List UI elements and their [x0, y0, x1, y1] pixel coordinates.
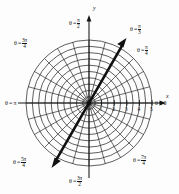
- angle-denominator-theta-3pi-2: 2: [77, 182, 83, 188]
- x-axis-letter: x: [166, 93, 169, 99]
- angle-label-theta-5pi-4: θ =5π4: [13, 157, 26, 169]
- y-axis-arrowhead: [87, 15, 92, 22]
- x-tick-label-5: 5: [150, 107, 153, 113]
- angle-denominator-theta-pi-4: 4: [145, 51, 148, 57]
- y-axis-letter: y: [93, 5, 96, 11]
- angle-fraction-theta-5pi-4: 5π4: [21, 157, 27, 169]
- angle-fraction-theta-pi-4: π4: [145, 45, 148, 57]
- pole-point: [87, 101, 91, 105]
- polar-grid-figure: y x 1 2 3 4 5 θ =π2 θ =π3 θ =π4 θ =3π4 θ…: [0, 0, 179, 194]
- angle-prefix-theta-3pi-4: θ =: [14, 40, 21, 46]
- angle-prefix-theta-pi: θ =: [5, 100, 12, 106]
- angle-prefix-theta-5pi-4: θ =: [13, 159, 20, 165]
- angle-label-theta-3pi-4: θ =3π4: [14, 38, 27, 50]
- x-tick-label-4: 4: [137, 107, 140, 113]
- angle-fraction-theta-7pi-4: 7π4: [141, 155, 147, 167]
- angle-label-theta-pi-3: θ =π3: [130, 24, 141, 36]
- angle-label-theta-7pi-4: θ =7π4: [133, 155, 146, 167]
- angle-fraction-theta-pi-2: π2: [77, 18, 80, 30]
- spoke-300: [89, 103, 121, 158]
- angle-prefix-theta-7pi-4: θ =: [133, 157, 140, 163]
- angle-label-theta-3pi-2: θ =3π2: [69, 176, 82, 188]
- angle-fraction-theta-pi-3: π3: [138, 24, 141, 36]
- angle-value-theta-0: 0: [163, 100, 166, 106]
- angle-label-theta-pi-4: θ =π4: [137, 45, 148, 57]
- x-tick-label-2: 2: [112, 107, 115, 113]
- polar-grid-svg: [0, 0, 179, 194]
- angle-denominator-theta-pi-3: 3: [138, 30, 141, 36]
- angle-prefix-theta-0: θ =: [155, 100, 162, 106]
- angle-label-theta-0: θ = 0: [155, 100, 166, 106]
- angle-value-theta-pi: π: [13, 100, 16, 106]
- theta-line-arrowhead-upper: [117, 38, 126, 48]
- angle-denominator-theta-5pi-4: 4: [21, 163, 27, 169]
- angle-denominator-theta-pi-2: 2: [77, 24, 80, 30]
- angle-prefix-theta-pi-4: θ =: [137, 47, 144, 53]
- x-tick-label-1: 1: [100, 107, 103, 113]
- angle-denominator-theta-7pi-4: 4: [141, 161, 147, 167]
- angle-label-theta-pi: θ = π: [5, 100, 16, 106]
- angle-denominator-theta-3pi-4: 4: [22, 44, 28, 50]
- spoke-330: [89, 103, 144, 135]
- angle-label-theta-pi-2: θ =π2: [69, 18, 80, 30]
- angle-prefix-theta-3pi-2: θ =: [69, 178, 76, 184]
- angle-prefix-theta-pi-3: θ =: [130, 26, 137, 32]
- angle-fraction-theta-3pi-2: 3π2: [77, 176, 83, 188]
- spoke-150: [34, 72, 89, 104]
- spoke-120: [58, 48, 90, 103]
- x-tick-label-3: 3: [125, 107, 128, 113]
- angle-prefix-theta-pi-2: θ =: [69, 20, 76, 26]
- angle-fraction-theta-3pi-4: 3π4: [22, 38, 28, 50]
